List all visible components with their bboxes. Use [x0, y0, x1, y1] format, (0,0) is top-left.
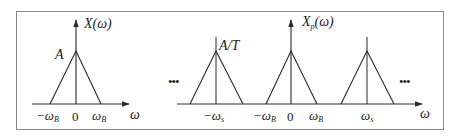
- left-tick-omega-b: ωB: [92, 108, 106, 124]
- right-tick-omega-s: ωs: [361, 108, 373, 124]
- right-tick-neg-omega-s: −ωs: [203, 108, 224, 124]
- left-x-axis-label: ω: [130, 107, 140, 122]
- right-peak-label: A/T: [218, 38, 240, 53]
- right-tick-neg-omega-b: −ωB: [253, 108, 276, 124]
- left-peak-label: A: [54, 47, 64, 62]
- left-tick-zero: 0: [72, 109, 79, 124]
- right-tick-omega-b: ωB: [309, 108, 323, 124]
- ellipsis-right: •••: [399, 74, 410, 89]
- right-x-axis-label: ω: [420, 106, 430, 121]
- sampling-spectrum-figure: X(ω) A −ωB 0 ωB ω ••• ••• Xp(ω) A/T −ωs …: [0, 0, 460, 136]
- left-panel-original-spectrum: X(ω) A −ωB 0 ωB ω: [32, 16, 140, 124]
- figure-frame: [17, 12, 444, 130]
- right-tick-zero: 0: [287, 109, 294, 124]
- left-tick-neg-omega-b: −ωB: [36, 108, 59, 124]
- right-panel-sampled-spectrum: ••• ••• Xp(ω) A/T −ωs −ωB 0 ωB ωs ω: [168, 14, 430, 124]
- left-panel-title: X(ω): [83, 16, 112, 32]
- ellipsis-left: •••: [168, 74, 179, 89]
- right-panel-title: Xp(ω): [301, 14, 334, 31]
